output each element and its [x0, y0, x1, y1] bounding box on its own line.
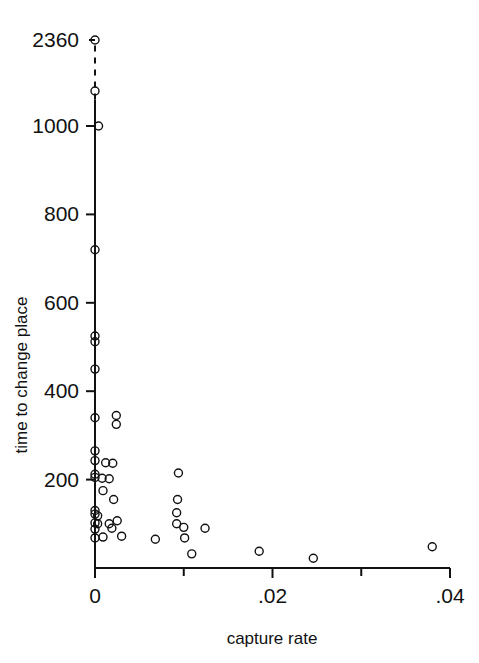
x-axis-tick-marks [95, 568, 450, 578]
data-point [201, 524, 209, 532]
data-point [188, 550, 196, 558]
data-point [113, 517, 121, 525]
data-point-markers [91, 36, 436, 562]
data-point [151, 535, 159, 543]
y-axis-tick-label: 200 [44, 468, 79, 491]
plot-canvas: 20040060080010002360 0.02.04 capture rat… [0, 0, 479, 663]
data-point [110, 495, 118, 503]
y-axis-tick-labels: 20040060080010002360 [32, 28, 79, 491]
data-point [99, 533, 107, 541]
x-axis-tick-label: 0 [89, 584, 101, 607]
y-axis-title: time to change place [12, 297, 31, 454]
x-axis-tick-label: .04 [435, 584, 465, 607]
data-point [180, 523, 188, 531]
page-header-ghost-text [288, 1, 468, 8]
data-point [174, 469, 182, 477]
data-point [118, 532, 126, 540]
data-point [112, 412, 120, 420]
data-point [255, 547, 263, 555]
data-point [181, 534, 189, 542]
y-axis-tick-label: 2360 [32, 28, 79, 51]
y-axis-tick-label: 1000 [32, 114, 79, 137]
x-axis-tick-label: .02 [258, 584, 287, 607]
data-point [112, 420, 120, 428]
y-axis-tick-label: 400 [44, 379, 79, 402]
data-point [309, 554, 317, 562]
x-axis-title: capture rate [227, 629, 318, 648]
data-point [173, 509, 181, 517]
y-axis-tick-label: 600 [44, 291, 79, 314]
scatter-plot-figure: 20040060080010002360 0.02.04 capture rat… [0, 0, 479, 663]
data-point [99, 487, 107, 495]
data-point [428, 543, 436, 551]
x-axis-tick-labels: 0.02.04 [89, 584, 465, 607]
y-axis-tick-label: 800 [44, 202, 79, 225]
data-point [174, 495, 182, 503]
